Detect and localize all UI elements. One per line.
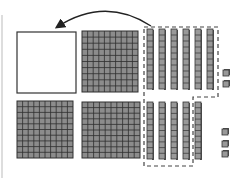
base-ten-diagram <box>0 0 244 179</box>
unit-cube <box>222 140 229 147</box>
hundred-flat <box>82 102 140 158</box>
unit-cube <box>223 80 230 87</box>
ten-rod <box>171 102 178 160</box>
empty-flat <box>17 32 76 93</box>
ten-rod <box>147 102 154 160</box>
ten-rod <box>183 29 190 90</box>
ten-rod <box>207 29 214 90</box>
hundred-flat <box>17 101 73 158</box>
ten-rod <box>159 102 166 160</box>
unit-cube <box>223 69 230 76</box>
tens-rods <box>147 29 214 160</box>
ten-rod <box>159 29 166 90</box>
unit-cubes <box>222 69 230 157</box>
hundred-flat <box>82 31 138 92</box>
unit-cube <box>222 128 229 135</box>
empty-flat-outline <box>17 32 76 93</box>
ten-rod <box>171 29 178 90</box>
unit-cube <box>222 150 229 157</box>
arrow-path <box>57 11 151 27</box>
ten-rod <box>195 102 202 160</box>
ten-rod <box>183 102 190 160</box>
ten-rod <box>195 29 202 90</box>
curved-arrow-icon <box>57 11 151 27</box>
ten-rod <box>147 29 154 90</box>
